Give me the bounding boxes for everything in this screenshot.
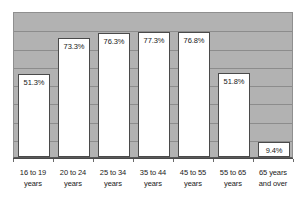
x-axis-label: 45 to 55years xyxy=(173,167,213,189)
bar-slot: 76.3% xyxy=(98,12,129,157)
x-axis-label: 25 to 34years xyxy=(93,167,133,189)
x-axis-label-line: 45 to 55 xyxy=(173,167,213,178)
bar-value-label: 77.3% xyxy=(139,36,168,45)
x-axis-label-line: 35 to 44 xyxy=(133,167,173,178)
bar[interactable]: 76.8% xyxy=(178,32,209,157)
x-axis-label: 16 to 19years xyxy=(13,167,53,189)
bar[interactable]: 51.8% xyxy=(218,73,249,157)
x-axis-label: 20 to 24years xyxy=(53,167,93,189)
bar-value-label: 76.3% xyxy=(99,37,128,46)
bar-value-label: 73.3% xyxy=(59,42,88,51)
x-axis-line xyxy=(13,158,293,159)
x-axis-label-line: 55 to 65 xyxy=(213,167,253,178)
x-axis-label-line: years xyxy=(213,178,253,189)
x-axis-labels: 16 to 19years20 to 24years25 to 34years3… xyxy=(13,167,293,195)
plot-area: 51.3%73.3%76.3%77.3%76.8%51.8%9.4% xyxy=(13,12,293,158)
x-axis-label: 55 to 65years xyxy=(213,167,253,189)
x-axis-label-line: 16 to 19 xyxy=(13,167,53,178)
bar-value-label: 76.8% xyxy=(179,36,208,45)
bar[interactable]: 76.3% xyxy=(98,33,129,157)
x-axis-label-line: years xyxy=(173,178,213,189)
bar[interactable]: 77.3% xyxy=(138,32,169,157)
bar-value-label: 51.8% xyxy=(219,77,248,86)
bar[interactable]: 73.3% xyxy=(58,38,89,157)
x-axis-tick xyxy=(53,159,54,162)
bar-value-label: 51.3% xyxy=(19,78,48,87)
bar-slot: 51.3% xyxy=(18,12,49,157)
x-axis-label-line: years xyxy=(133,178,173,189)
x-axis-tick xyxy=(93,159,94,162)
x-axis-label-line: years xyxy=(93,178,133,189)
bar-value-label: 9.4% xyxy=(259,146,288,155)
bar[interactable]: 51.3% xyxy=(18,74,49,157)
x-axis-label: 35 to 44years xyxy=(133,167,173,189)
x-axis-tick xyxy=(213,159,214,162)
x-axis-label-line: 25 to 34 xyxy=(93,167,133,178)
x-axis-tick xyxy=(13,159,14,162)
x-axis-tick xyxy=(253,159,254,162)
x-axis-label-line: 20 to 24 xyxy=(53,167,93,178)
bar-slot: 76.8% xyxy=(178,12,209,157)
x-axis-tick xyxy=(133,159,134,162)
x-axis-tick xyxy=(173,159,174,162)
x-axis-tick xyxy=(293,159,294,162)
bar[interactable]: 9.4% xyxy=(258,142,289,157)
x-axis-label-line: years xyxy=(13,178,53,189)
bar-slot: 77.3% xyxy=(138,12,169,157)
bar-slot: 73.3% xyxy=(58,12,89,157)
x-axis-label: 65 yearsand over xyxy=(253,167,293,189)
x-axis-label-line: and over xyxy=(253,178,293,189)
bar-slot: 9.4% xyxy=(258,12,289,157)
bar-slot: 51.8% xyxy=(218,12,249,157)
bars-layer: 51.3%73.3%76.3%77.3%76.8%51.8%9.4% xyxy=(14,13,292,157)
bar-chart: 51.3%73.3%76.3%77.3%76.8%51.8%9.4% 16 to… xyxy=(0,0,305,198)
x-axis-label-line: 65 years xyxy=(253,167,293,178)
x-axis-label-line: years xyxy=(53,178,93,189)
